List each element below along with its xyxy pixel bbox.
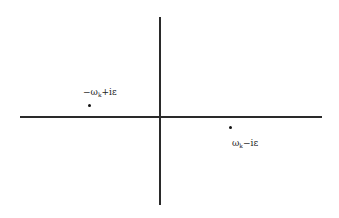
complex-plane-diagram: −ωk+iε ωk−iε: [0, 0, 339, 218]
pole-upper-left-label: −ωk+iε: [83, 88, 117, 98]
real-axis: [20, 116, 322, 118]
pole-lower-right-label-suffix: −iε: [243, 138, 258, 148]
pole-upper-left-label-prefix: −ω: [83, 87, 98, 97]
pole-lower-right-dot: [229, 126, 232, 129]
pole-upper-left-dot: [88, 104, 91, 107]
imaginary-axis: [159, 17, 161, 205]
pole-upper-left-label-suffix: +iε: [102, 87, 117, 97]
pole-lower-right-label: ωk−iε: [232, 139, 258, 149]
